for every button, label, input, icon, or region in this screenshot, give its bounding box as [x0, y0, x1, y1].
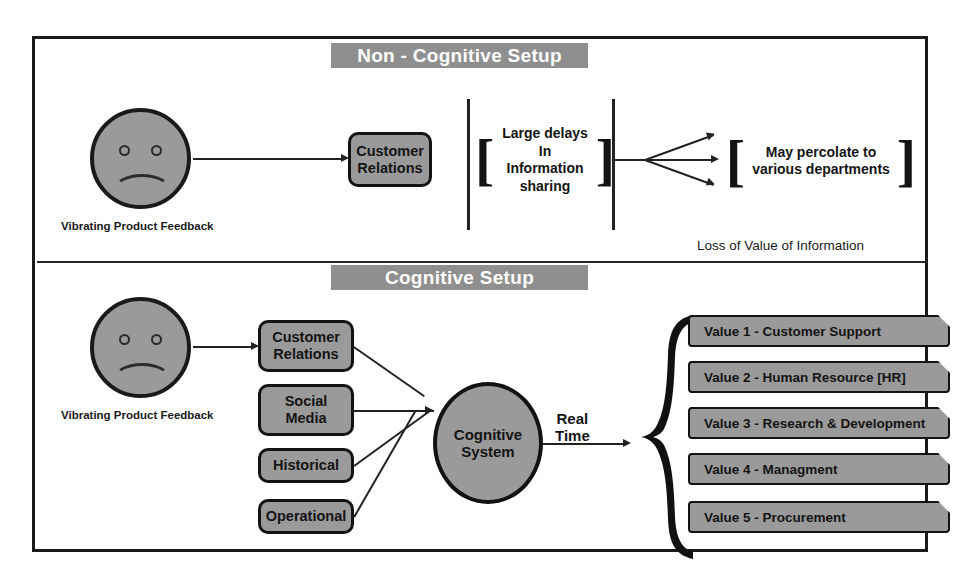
link-customer-relations-to-engine: [354, 346, 425, 397]
cognitive-system-line2: System: [461, 443, 514, 460]
real-time-line2: Time: [555, 428, 590, 445]
node-output-value-3: Value 3 - Research & Development: [688, 407, 950, 439]
fanout-arrow-mid-line: [645, 159, 715, 161]
note-may-percolate-text: May percolate to various departments: [745, 144, 897, 179]
node-output-value-1: Value 1 - Customer Support: [688, 315, 950, 347]
label-real-time: Real Time: [555, 411, 590, 444]
note-large-delays-text: Large delays In Information sharing: [494, 125, 595, 195]
face-eye-left-icon: [119, 145, 130, 156]
footer-note-loss-of-value: Loss of Value of Information: [697, 238, 864, 253]
real-time-line1: Real: [555, 411, 590, 428]
diagram-frame: Non - Cognitive Setup Vibrating Product …: [32, 36, 928, 552]
face-frown-icon: [113, 174, 171, 206]
node-customer-relations-top: Customer Relations: [348, 132, 432, 187]
fanout-arrow-down-line: [645, 159, 714, 185]
fanout-stem: [613, 159, 646, 161]
face-frown-icon-bottom: [113, 363, 171, 395]
node-input-social-media: Social Media: [258, 384, 354, 436]
fanout-arrow-down-head: [706, 178, 716, 188]
face-caption-bottom: Vibrating Product Feedback: [61, 409, 214, 421]
note-large-delays: [ Large delays In Information sharing ]: [475, 129, 615, 191]
section-header-non-cognitive: Non - Cognitive Setup: [331, 43, 588, 68]
arrow-head-inputs-to-engine: [425, 406, 433, 414]
node-output-value-5: Value 5 - Procurement: [688, 501, 950, 533]
bracket-open-icon: [: [475, 139, 494, 181]
face-eye-right-icon-bottom: [151, 334, 162, 345]
link-historical-to-engine: [354, 410, 430, 466]
note-may-percolate: [ May percolate to various departments ]: [725, 137, 917, 185]
sad-face-icon-top: [90, 108, 191, 209]
face-caption-top: Vibrating Product Feedback: [61, 220, 214, 232]
node-output-value-4: Value 4 - Managment: [688, 453, 950, 485]
node-output-value-2: Value 2 - Human Resource [HR]: [688, 361, 950, 393]
face-eye-right-icon: [151, 145, 162, 156]
arrow-line-face-to-inputs: [193, 346, 253, 348]
link-operational-to-engine: [353, 411, 415, 517]
arrow-line-face-to-node-top: [193, 158, 343, 160]
divider-vertical-left: [467, 99, 470, 230]
node-input-historical: Historical: [258, 448, 354, 483]
link-social-media-to-engine: [354, 410, 434, 412]
cognitive-system-line1: Cognitive: [454, 426, 522, 443]
node-input-customer-relations: Customer Relations: [258, 320, 354, 372]
bracket-open-icon-2: [: [726, 140, 745, 182]
fanout-arrow-up-head: [706, 130, 716, 140]
node-cognitive-system: Cognitive System: [433, 382, 543, 504]
divider-vertical-right: [612, 99, 615, 230]
fanout-arrow-mid-head: [711, 155, 719, 163]
panel-divider: [37, 261, 927, 263]
node-input-operational: Operational: [258, 499, 354, 534]
face-eye-left-icon-bottom: [119, 334, 130, 345]
arrow-head-engine-to-outputs: [623, 439, 631, 447]
bracket-close-icon-2: ]: [897, 140, 916, 182]
sad-face-icon-bottom: [90, 297, 191, 398]
section-header-cognitive: Cognitive Setup: [331, 265, 588, 290]
fanout-arrow-up-line: [645, 134, 714, 160]
